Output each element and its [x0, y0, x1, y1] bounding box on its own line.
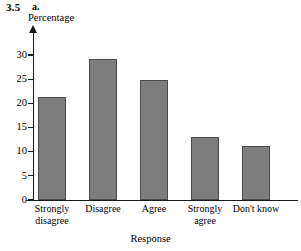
bar: [191, 137, 219, 200]
y-tick-label: 15: [3, 122, 27, 133]
x-tick-label-line: disagree: [21, 215, 83, 227]
y-axis-arrow-icon: [29, 25, 37, 33]
y-tick-label: 20: [3, 98, 27, 109]
figure-number: 3.5: [6, 1, 21, 13]
x-tick-label-line: Don't know: [225, 203, 287, 215]
x-axis-title: Response: [0, 233, 301, 244]
y-tick-mark: [28, 151, 34, 152]
y-tick-mark: [28, 175, 34, 176]
y-axis-title: Percentage: [28, 12, 74, 23]
bar-chart: 3.5 a. Percentage 302520151050 Stronglyd…: [0, 0, 301, 251]
y-tick-label: 5: [3, 171, 27, 182]
y-tick-label: 25: [3, 74, 27, 85]
bar: [140, 80, 168, 200]
bar: [38, 97, 66, 200]
y-tick-mark: [28, 199, 34, 200]
y-tick-mark: [28, 79, 34, 80]
figure-part-label: a.: [32, 1, 40, 12]
y-tick-mark: [28, 127, 34, 128]
y-tick-label: 10: [3, 146, 27, 157]
x-tick-label: Don't know: [225, 203, 287, 215]
x-tick-label-line: agree: [174, 215, 236, 227]
bar: [89, 59, 117, 200]
bar: [242, 146, 270, 200]
y-tick-mark: [28, 103, 34, 104]
y-tick-label: 30: [3, 50, 27, 61]
x-axis-line: [26, 200, 298, 201]
y-tick-mark: [28, 54, 34, 55]
